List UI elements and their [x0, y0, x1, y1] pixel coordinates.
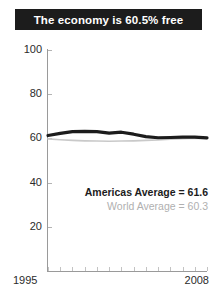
chart-lines — [0, 0, 217, 296]
line-americas-average — [48, 131, 207, 138]
legend-item-world: World Average = 60.3 — [85, 200, 208, 213]
legend-item-americas: Americas Average = 61.6 — [85, 186, 208, 199]
chart-legend: Americas Average = 61.6 World Average = … — [85, 186, 208, 213]
chart-figure: The economy is 60.5% free 10080604020 19… — [0, 0, 217, 296]
